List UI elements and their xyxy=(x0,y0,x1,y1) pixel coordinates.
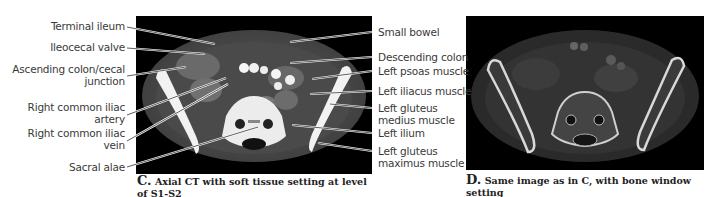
label-left-gluteus-maximus-muscle: Left gluteusmaximus muscle xyxy=(378,145,464,169)
ct-image-soft-tissue xyxy=(136,16,372,174)
label-left-psoas-muscle: Left psoas muscle xyxy=(378,65,469,77)
label-left-ilium: Left ilium xyxy=(378,127,425,139)
caption-panel-c: C. Axial CT with soft tissue setting at … xyxy=(137,175,367,197)
panel-letter-d: D. xyxy=(466,172,481,187)
label-descending-colon: Descending colon xyxy=(378,51,468,63)
ct-bone-window-scan xyxy=(466,16,704,170)
label-ascending-colon-cecal-junction: Ascending colon/cecaljunction xyxy=(12,63,125,87)
caption-panel-d: D. Same image as in C, with bone window … xyxy=(466,174,727,197)
ct-soft-tissue-scan xyxy=(136,16,372,174)
label-terminal-ileum: Terminal ileum xyxy=(51,20,125,32)
label-ileocecal-valve: Ileocecal valve xyxy=(50,41,125,53)
ct-image-bone-window xyxy=(466,16,704,170)
label-left-iliacus-muscle: Left iliacus muscle xyxy=(378,85,471,97)
label-right-common-iliac-vein: Right common iliacvein xyxy=(28,127,125,151)
label-small-bowel: Small bowel xyxy=(378,26,439,38)
panel-letter-c: C. xyxy=(137,173,152,188)
label-left-gluteus-medius-muscle: Left gluteusmedius muscle xyxy=(378,102,455,126)
label-right-common-iliac-artery: Right common iliacartery xyxy=(28,101,125,125)
label-sacral-alae: Sacral alae xyxy=(69,161,125,173)
